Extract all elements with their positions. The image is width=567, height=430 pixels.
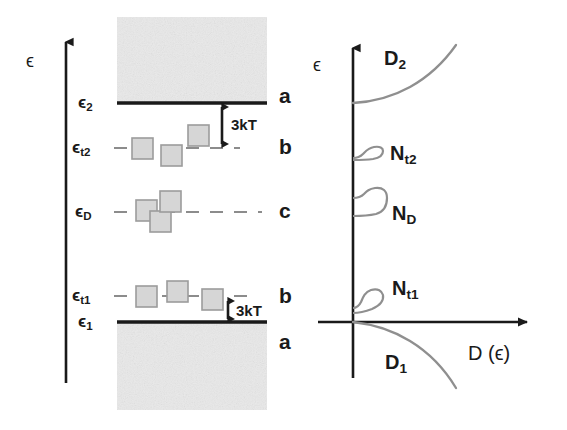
kt-label-lower: 3kT <box>236 303 262 318</box>
curve-label-Nt1: Nt1 <box>392 278 419 298</box>
curve-label-Nt2-main: N <box>390 142 404 164</box>
state-boxes-epst2 <box>132 125 209 166</box>
right-energy-axis-label: ϵ <box>313 56 321 74</box>
upper-band <box>117 17 267 103</box>
level-label-epst1-sub: t1 <box>80 294 90 306</box>
energy-dos-figure: ϵ ϵ2 ϵt2 ϵD ϵt1 ϵ1 3kT 3kT a b c b a ϵ D… <box>0 0 567 430</box>
level-label-epst2: ϵt2 <box>72 139 90 156</box>
lower-band <box>117 322 267 410</box>
level-label-eps2-main: ϵ <box>78 93 86 112</box>
level-label-eps1-main: ϵ <box>78 312 86 331</box>
curve-label-Nt2: Nt2 <box>390 143 417 163</box>
curve-label-D1: D1 <box>385 352 407 372</box>
level-label-epst1-main: ϵ <box>72 286 80 305</box>
category-label-c: c <box>279 200 291 221</box>
curve-ND <box>353 188 387 216</box>
category-label-b-bottom: b <box>279 285 292 306</box>
left-energy-axis-label: ϵ <box>26 52 34 70</box>
curve-label-D2: D2 <box>384 48 406 68</box>
state-boxes-epsD <box>136 191 181 232</box>
curve-label-D2-sub: 2 <box>398 57 406 72</box>
curve-label-D2-main: D <box>384 47 398 69</box>
level-label-eps1: ϵ1 <box>78 313 93 330</box>
level-label-epst2-main: ϵ <box>72 138 80 157</box>
curve-Nt1 <box>353 289 383 313</box>
curve-label-Nt1-main: N <box>392 277 406 299</box>
level-label-eps1-sub: 1 <box>86 320 92 332</box>
category-label-b-top: b <box>279 136 292 157</box>
curve-Nt2 <box>353 147 383 160</box>
level-label-epst1: ϵt1 <box>72 287 90 304</box>
level-label-epsD-sub: D <box>83 210 91 222</box>
dos-axis-label: D (ϵ) <box>468 343 510 363</box>
curve-label-Nt2-sub: t2 <box>404 152 416 167</box>
category-label-a-top: a <box>279 85 291 106</box>
level-label-eps2-sub: 2 <box>86 101 92 113</box>
level-label-epsD-main: ϵ <box>75 202 83 221</box>
kt-label-upper: 3kT <box>231 117 257 132</box>
curve-label-ND-sub: D <box>406 212 416 227</box>
curve-label-D1-main: D <box>385 351 399 373</box>
curve-label-ND: ND <box>392 203 416 223</box>
level-label-epsD: ϵD <box>75 203 91 220</box>
level-label-epst2-sub: t2 <box>80 146 90 158</box>
curve-label-ND-main: N <box>392 202 406 224</box>
level-label-eps2: ϵ2 <box>78 94 93 111</box>
curve-label-Nt1-sub: t1 <box>406 287 418 302</box>
category-label-a-bottom: a <box>279 331 291 352</box>
curve-label-D1-sub: 1 <box>399 361 407 376</box>
state-boxes-epst1 <box>136 281 223 310</box>
